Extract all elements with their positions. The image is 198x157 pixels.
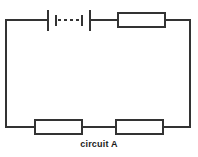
diagram-caption: circuit A — [0, 139, 198, 149]
resistor-top — [118, 13, 165, 27]
resistor-bottom-right — [116, 120, 163, 134]
battery-symbol — [48, 10, 90, 31]
resistor-bottom-left — [35, 120, 82, 134]
circuit-schematic — [0, 0, 198, 157]
circuit-diagram-root: circuit A — [0, 0, 198, 157]
